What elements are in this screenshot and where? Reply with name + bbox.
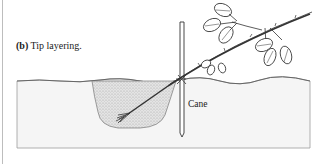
tip-layering-figure: (b) Tip layering. Cane: [0, 0, 326, 164]
label-cane: Cane: [188, 99, 208, 109]
leaves: [200, 1, 294, 76]
figure-caption: (b) Tip layering.: [16, 40, 82, 51]
caption-text: Tip layering.: [28, 40, 82, 51]
caption-tag: (b): [16, 40, 28, 51]
tip-layering-illustration: [0, 0, 326, 164]
